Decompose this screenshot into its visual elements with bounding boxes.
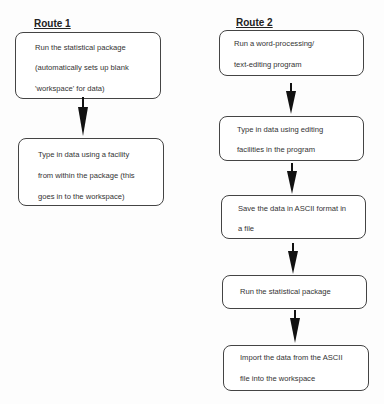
step-text: text-editing program [234,60,302,69]
step-text: facilities in the program [237,145,315,154]
route-2-step-1: Run a word-processing/ text-editing prog… [219,30,364,76]
route-2-step-3: Save the data in ASCII format in a file [221,195,366,239]
arrow-down-icon [285,83,297,115]
step-text: Run the statistical package [35,43,126,52]
step-text: goes in to the workspace) [38,192,125,201]
step-text: Import the data from the ASCII [240,353,343,362]
arrow-down-icon [287,243,299,275]
step-text: Type in data using a facility [38,150,129,159]
route-2-title: Route 2 [236,17,273,28]
arrow-down-icon [289,310,301,344]
arrow-down-icon [286,163,298,195]
step-text: Type in data using editing [237,125,323,134]
step-text: Save the data in ASCII format in [238,204,346,213]
arrow-down-icon [77,97,89,137]
route-2-step-5: Import the data from the ASCII file into… [223,345,369,391]
route-1-step-1: Run the statistical package (automatical… [15,32,161,99]
step-text: (automatically sets up blank [35,63,129,72]
route-2-step-2: Type in data using editing facilities in… [219,116,364,161]
step-text: Run the statistical package [240,287,331,296]
route-1-step-2: Type in data using a facility from withi… [18,138,164,206]
step-text: from within the package (this [38,171,135,180]
step-text: Run a word-processing/ [234,39,314,48]
step-text: 'workspace' for data) [35,84,105,93]
route-1-title: Route 1 [34,18,71,29]
route-2-step-4: Run the statistical package [222,275,367,309]
step-text: file into the workspace [240,374,315,383]
step-text: a file [238,224,254,233]
